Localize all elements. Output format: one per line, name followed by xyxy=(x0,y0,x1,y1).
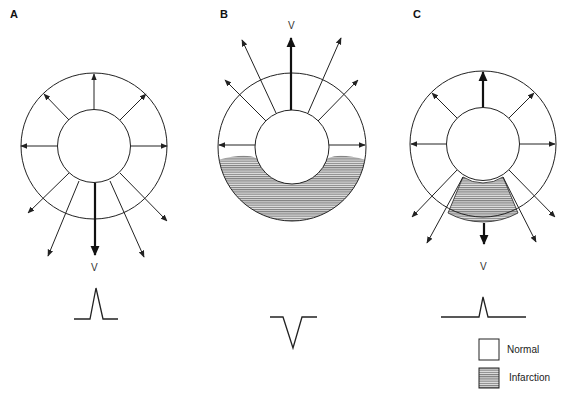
legend-item-infarction: Infarction xyxy=(479,368,550,388)
legend-item-normal: Normal xyxy=(479,339,539,360)
arrow-up-left-icon xyxy=(44,94,69,120)
vector-label-b: V xyxy=(288,20,295,31)
arrow-up-right-icon xyxy=(120,94,146,120)
panel-c: C V xyxy=(410,8,556,317)
legend-swatch-infarction xyxy=(479,368,499,388)
arrow-down-right-icon xyxy=(120,173,167,221)
infarction-vector-diagram: A V B xyxy=(0,0,564,398)
legend-label-infarction: Infarction xyxy=(509,372,550,383)
arrow-down-left-icon xyxy=(48,181,79,256)
panel-label-b: B xyxy=(220,8,228,20)
ecg-waveform-b xyxy=(270,317,317,348)
legend-label-normal: Normal xyxy=(507,344,539,355)
legend-swatch-normal xyxy=(479,339,499,360)
arrow-down-left-icon xyxy=(28,173,69,213)
vector-label-a: V xyxy=(91,262,98,273)
panel-label-a: A xyxy=(10,8,18,20)
heart-cavity-c xyxy=(447,108,520,181)
legend: Normal Infarction xyxy=(479,339,550,388)
panel-b: B V xyxy=(218,8,366,348)
ecg-waveform-a xyxy=(74,288,118,319)
panel-a: A V xyxy=(10,8,167,319)
heart-cavity-b xyxy=(255,110,329,184)
ecg-waveform-c xyxy=(441,297,526,317)
heart-cavity-a xyxy=(58,110,131,183)
panel-label-c: C xyxy=(413,8,421,20)
vector-label-c: V xyxy=(480,261,487,272)
